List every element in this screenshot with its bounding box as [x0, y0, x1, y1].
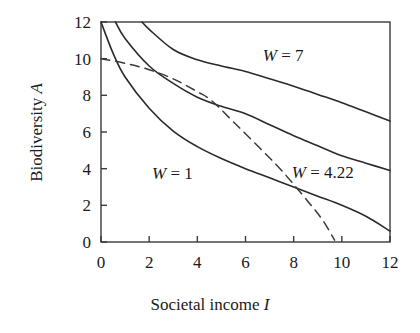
- curve-annotation-4.22: W = 4.22: [292, 164, 354, 181]
- y-tick-label-8: 8: [41, 87, 91, 104]
- annotation-value: = 7: [277, 46, 304, 65]
- x-tick-label-4: 4: [172, 254, 222, 271]
- y-axis-title-text: Biodiversity: [27, 98, 46, 182]
- y-axis-title: Biodiversity A: [28, 23, 45, 243]
- y-tick-label-6: 6: [41, 124, 91, 141]
- x-tick-label-12: 12: [365, 254, 415, 271]
- x-axis-symbol: I: [264, 295, 270, 314]
- annotation-value: = 1: [166, 164, 193, 183]
- x-tick-label-8: 8: [269, 254, 319, 271]
- y-axis-ticks: [101, 22, 107, 242]
- annotation-symbol: W: [152, 164, 166, 183]
- x-tick-label-10: 10: [317, 254, 367, 271]
- curve-w-1: [101, 22, 390, 231]
- x-axis-ticks: [101, 236, 390, 242]
- y-tick-label-12: 12: [41, 14, 91, 31]
- y-tick-label-4: 4: [41, 161, 91, 178]
- x-axis-title: Societal income I: [0, 296, 420, 313]
- y-tick-label-2: 2: [41, 197, 91, 214]
- plot-frame: [101, 22, 390, 242]
- y-tick-label-10: 10: [41, 51, 91, 68]
- x-tick-label-2: 2: [124, 254, 174, 271]
- data-curves: [101, 22, 390, 240]
- annotation-value: = 4.22: [306, 163, 354, 182]
- x-tick-label-0: 0: [76, 254, 126, 271]
- chart-figure: 024681012 024681012 W = 7W = 1W = 4.22 S…: [0, 0, 420, 333]
- curve-annotation-7: W = 7: [263, 47, 304, 64]
- curve-annotation-1: W = 1: [152, 165, 193, 182]
- x-axis-title-text: Societal income: [151, 295, 260, 314]
- curve-w-7: [142, 22, 390, 121]
- curve-w-4.22: [115, 22, 390, 171]
- x-tick-label-6: 6: [221, 254, 271, 271]
- annotation-symbol: W: [263, 46, 277, 65]
- curve-optimum-path: [101, 59, 335, 241]
- y-axis-symbol: A: [27, 83, 46, 93]
- annotation-symbol: W: [292, 163, 306, 182]
- y-tick-label-0: 0: [41, 234, 91, 251]
